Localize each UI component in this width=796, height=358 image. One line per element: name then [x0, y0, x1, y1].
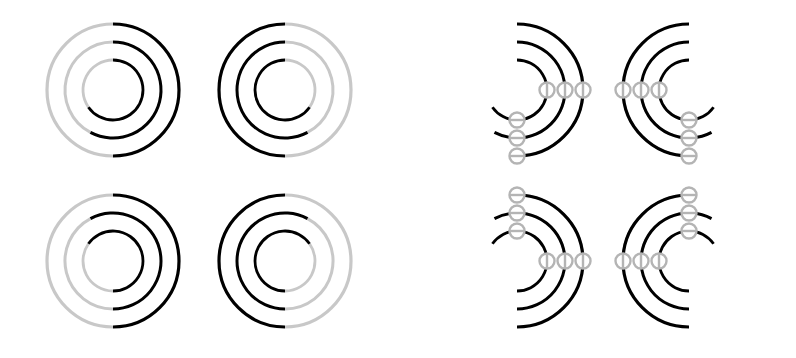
node-inner-end [652, 83, 667, 98]
figure-root [0, 0, 796, 358]
solid-arc-ring-2 [88, 231, 143, 291]
solid-arc-ring-2 [255, 231, 310, 291]
node-inner-drop [682, 113, 697, 128]
solid-arc-ring-1 [90, 42, 161, 138]
node-mid-end [558, 254, 573, 269]
panel-top-right-nodes [601, 2, 777, 178]
panel-top-left-nodes [429, 2, 605, 178]
panel-bottom-right-nodes [601, 173, 777, 349]
node-inner-drop [510, 224, 525, 239]
panel-bottom-left-nodes [429, 173, 605, 349]
node-inner-drop [682, 224, 697, 239]
panel-top-left [25, 2, 201, 178]
panel-bottom-right [197, 173, 373, 349]
solid-arc-ring-1 [237, 42, 308, 138]
solid-arc-ring-2 [255, 60, 310, 120]
faded-arc-ring-2 [83, 244, 113, 291]
node-mid-drop [682, 206, 697, 221]
faded-arc-ring-2 [285, 60, 315, 107]
solid-arc-ring-1 [237, 213, 308, 309]
panel-bottom-left [25, 173, 201, 349]
solid-arc-ring-1 [90, 213, 161, 309]
node-inner-drop [510, 113, 525, 128]
solid-arc-ring-2 [88, 60, 143, 120]
node-mid-drop [510, 206, 525, 221]
node-mid-drop [682, 131, 697, 146]
node-outer-drop [682, 188, 697, 203]
node-outer-end [576, 254, 591, 269]
node-mid-end [634, 83, 649, 98]
node-outer-drop [510, 149, 525, 164]
faded-arc-ring-2 [83, 60, 113, 107]
node-inner-end [540, 83, 555, 98]
node-outer-drop [510, 188, 525, 203]
node-mid-end [558, 83, 573, 98]
node-outer-end [616, 83, 631, 98]
node-outer-end [616, 254, 631, 269]
node-inner-end [652, 254, 667, 269]
node-mid-end [634, 254, 649, 269]
node-outer-drop [682, 149, 697, 164]
node-outer-end [576, 83, 591, 98]
node-mid-drop [510, 131, 525, 146]
faded-arc-ring-2 [285, 244, 315, 291]
panel-top-right [197, 2, 373, 178]
node-inner-end [540, 254, 555, 269]
